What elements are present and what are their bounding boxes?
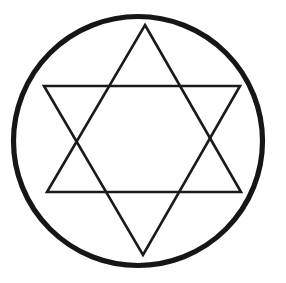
star-of-david-figure [0,0,286,283]
figure-canvas [0,0,286,283]
figure-background [0,0,286,283]
